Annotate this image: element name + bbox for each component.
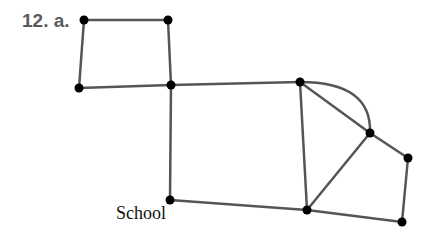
- edge-F-G: [370, 133, 408, 158]
- edge-E-I: [300, 82, 307, 210]
- node-H: [398, 218, 407, 227]
- node-C: [75, 84, 84, 93]
- node-A: [80, 16, 89, 25]
- node-F: [366, 129, 375, 138]
- edge-H-I: [307, 210, 402, 222]
- edge-D-E: [171, 82, 300, 85]
- edge-D-School: [170, 85, 171, 200]
- edge-C-D: [79, 85, 171, 88]
- graph-diagram: [0, 0, 430, 236]
- graph-edges: [79, 20, 408, 222]
- edge-A-C: [79, 20, 84, 88]
- node-I: [303, 206, 312, 215]
- edge-E-F: [300, 82, 370, 133]
- edge-I-F: [307, 133, 370, 210]
- node-B: [164, 16, 173, 25]
- school-label: School: [116, 203, 166, 224]
- edge-B-D: [168, 20, 171, 85]
- edge-School-I: [170, 200, 307, 210]
- node-D: [167, 81, 176, 90]
- node-G: [404, 154, 413, 163]
- node-School: [166, 196, 175, 205]
- edge-G-H: [402, 158, 408, 222]
- graph-nodes: [75, 16, 413, 227]
- node-E: [296, 78, 305, 87]
